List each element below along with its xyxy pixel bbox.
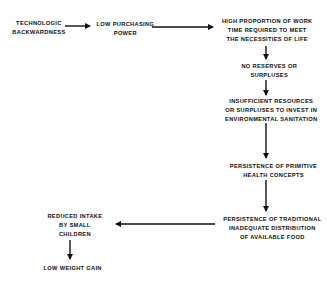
flow-arrows [0,0,327,282]
